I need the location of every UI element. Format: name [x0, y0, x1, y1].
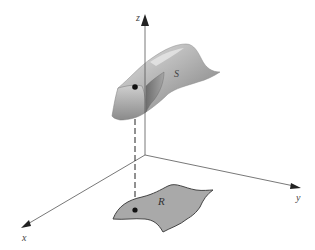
y-axis-label: y — [295, 192, 301, 203]
surface-s: S — [112, 44, 220, 120]
surface-label: S — [174, 68, 179, 79]
region-r: R — [113, 185, 213, 232]
region-label: R — [157, 195, 165, 207]
y-axis-arrow-icon — [290, 183, 301, 189]
x-axis-arrow-icon — [21, 220, 31, 228]
region-point — [132, 207, 137, 212]
z-axis-arrow-icon — [141, 14, 149, 26]
surface-point — [132, 84, 138, 90]
x-axis-label: x — [21, 232, 27, 243]
surface-region-diagram: R S z x y — [0, 0, 315, 250]
y-axis — [145, 155, 301, 189]
z-axis-label: z — [135, 12, 140, 23]
